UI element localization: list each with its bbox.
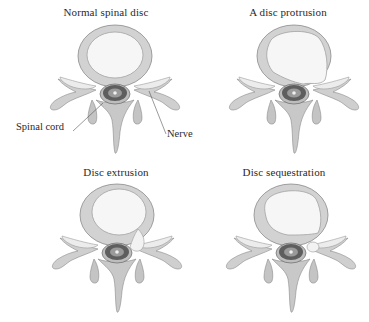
panel-disc-extrusion: Disc extrusion	[0, 161, 184, 322]
nerve-label: Nerve	[167, 128, 193, 139]
panel-disc-sequestration: Disc sequestration	[184, 161, 368, 322]
panel-normal-disc: Normal spinal disc Spinal cord	[0, 0, 184, 161]
sequestered-fragment	[307, 242, 319, 252]
vertebra-illustration-sequestration	[184, 161, 368, 322]
spinal-cord-label: Spinal cord	[16, 121, 64, 132]
vertebra-illustration-normal	[0, 0, 184, 161]
vertebra-illustration-protrusion	[184, 0, 368, 161]
vertebra-illustration-extrusion	[0, 161, 184, 322]
panel-disc-protrusion: A disc protrusion Nerve	[184, 0, 368, 161]
spinal-cord-pointer-line	[73, 103, 103, 131]
